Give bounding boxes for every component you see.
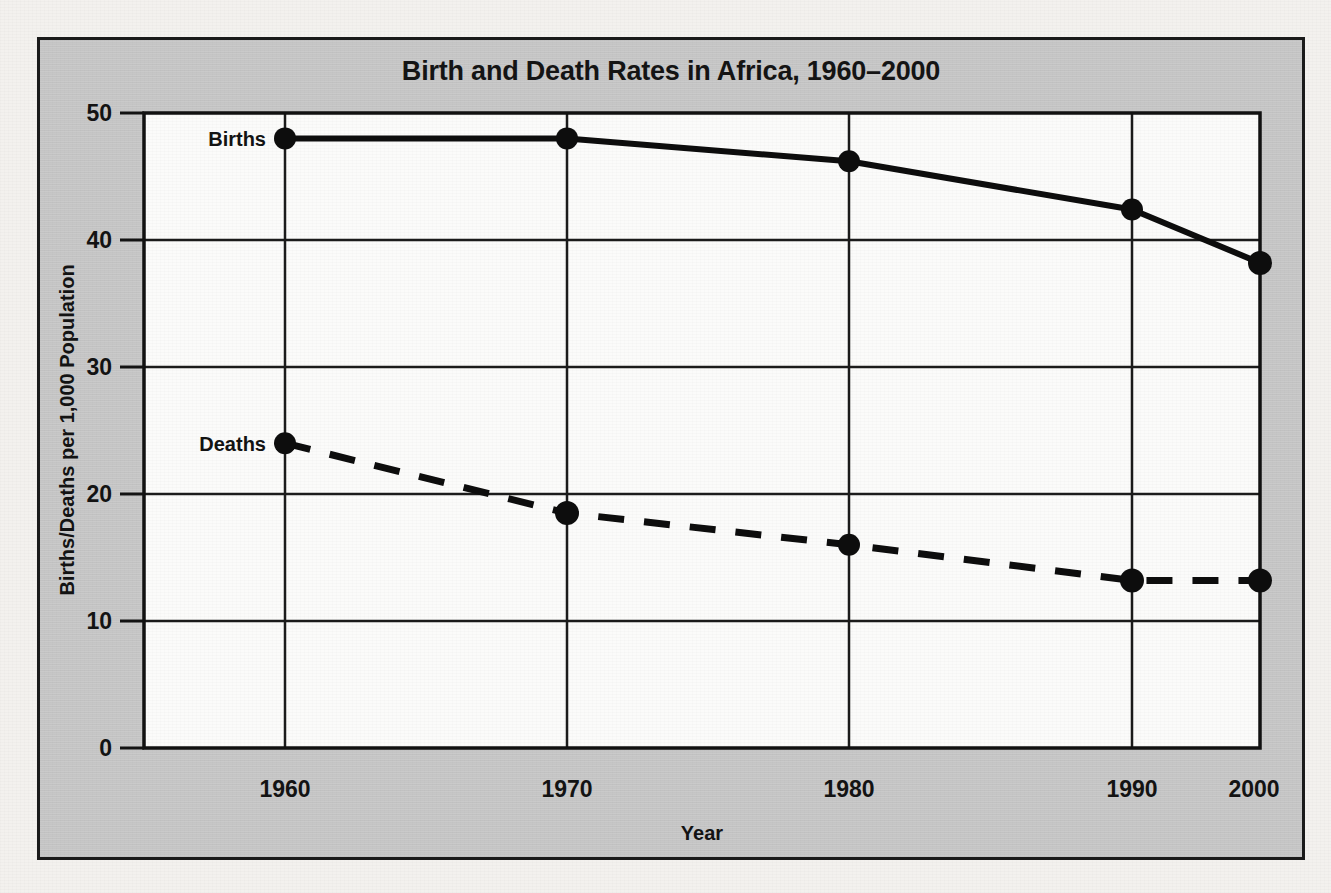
plot-area-background <box>144 113 1260 748</box>
deaths-point-1980 <box>838 534 860 556</box>
x-axis-title: Year <box>681 822 723 844</box>
x-tick-label-1970: 1970 <box>541 776 592 802</box>
deaths-point-1990 <box>1120 568 1144 592</box>
chart-title: Birth and Death Rates in Africa, 1960–20… <box>40 56 1302 87</box>
y-tick-label-40: 40 <box>86 227 112 253</box>
y-tick-label-10: 10 <box>86 608 112 634</box>
chart-panel: Birth and Death Rates in Africa, 1960–20… <box>37 37 1305 860</box>
y-axis-ticks <box>120 113 144 748</box>
births-point-1980 <box>838 150 860 172</box>
births-point-2000 <box>1248 251 1272 275</box>
line-chart-plot: 0 10 20 30 40 50 Births/Deaths per 1,000… <box>40 40 1302 857</box>
y-tick-label-0: 0 <box>99 735 112 761</box>
y-tick-label-20: 20 <box>86 481 112 507</box>
deaths-point-1960 <box>274 432 296 454</box>
x-tick-label-2000: 2000 <box>1228 776 1279 802</box>
x-tick-label-1960: 1960 <box>259 776 310 802</box>
births-point-1990 <box>1121 199 1143 221</box>
deaths-point-1970 <box>555 501 579 525</box>
series-label-births: Births <box>208 128 266 150</box>
x-tick-label-1980: 1980 <box>823 776 874 802</box>
y-tick-label-50: 50 <box>86 100 112 126</box>
x-tick-label-1990: 1990 <box>1106 776 1157 802</box>
y-axis-title: Births/Deaths per 1,000 Population <box>56 264 78 595</box>
series-label-deaths: Deaths <box>199 433 266 455</box>
births-point-1970 <box>556 127 578 149</box>
births-point-1960 <box>274 127 296 149</box>
y-tick-label-30: 30 <box>86 354 112 380</box>
deaths-point-2000 <box>1248 568 1272 592</box>
